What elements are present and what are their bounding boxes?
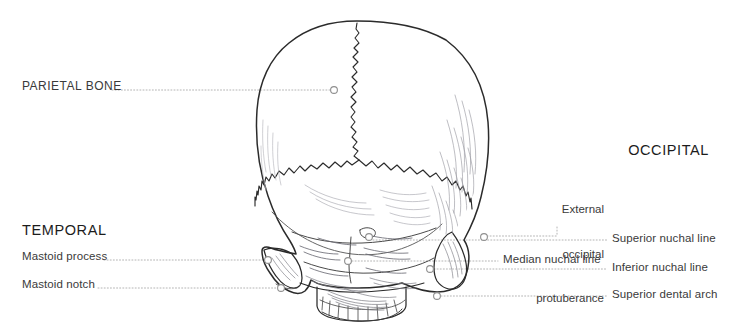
- marker-superior-nuchal-line: [366, 234, 373, 241]
- eop-line-3: protuberance: [504, 291, 604, 306]
- cranium-outline: [256, 21, 488, 293]
- marker-parietal-bone: [331, 87, 338, 94]
- occipital-bone-boundary: [272, 212, 442, 255]
- marker-superior-dental-arch: [434, 293, 441, 300]
- anatomical-illustration-page: PARIETAL BONE TEMPORAL Mastoid process M…: [0, 0, 730, 334]
- label-superior-nuchal-line: Superior nuchal line: [612, 232, 716, 245]
- heading-temporal: TEMPORAL: [22, 222, 107, 238]
- lambdoid-suture-left: [255, 160, 359, 206]
- skull-drawing: [255, 21, 489, 321]
- label-mastoid-process: Mastoid process: [22, 250, 107, 263]
- superior-nuchal-line-curve: [292, 228, 436, 243]
- marker-median-nuchal-line: [345, 258, 352, 265]
- skull-figure: [0, 0, 730, 334]
- marker-inferior-nuchal-line: [427, 266, 434, 273]
- marker-mastoid-process: [265, 257, 272, 264]
- label-superior-dental-arch: Superior dental arch: [612, 288, 718, 301]
- label-inferior-nuchal-line: Inferior nuchal line: [612, 261, 708, 274]
- inferior-nuchal-line-curve: [304, 258, 434, 273]
- marker-external-occipital-protuberance: [481, 234, 488, 241]
- label-median-nuchal-line: Median nuchal line: [503, 253, 601, 266]
- label-parietal-bone: PARIETAL BONE: [22, 80, 122, 93]
- eop-line-1: External: [504, 202, 604, 217]
- heading-occipital: OCCIPITAL: [628, 142, 709, 158]
- label-mastoid-notch: Mastoid notch: [22, 278, 95, 291]
- tooth-row-lower-edge: [322, 309, 402, 321]
- marker-mastoid-notch: [278, 285, 285, 292]
- skull-shading: [261, 95, 476, 310]
- sagittal-suture: [351, 23, 359, 160]
- dental-arch-palate-edge: [320, 300, 405, 310]
